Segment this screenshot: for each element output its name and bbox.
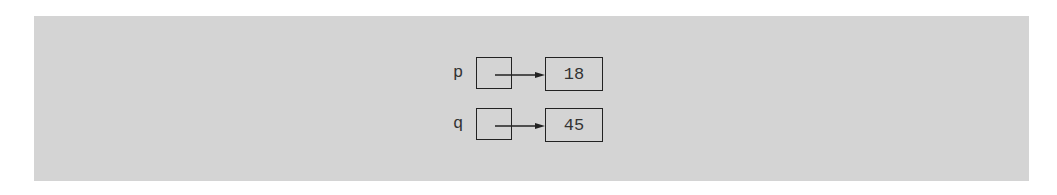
- value-box: 18: [545, 57, 603, 91]
- variable-label: q: [453, 112, 463, 136]
- value-box: 45: [545, 108, 603, 142]
- diagram-panel: p 18 q 45: [34, 16, 1029, 181]
- pointer-row-p: p 18: [34, 57, 1029, 91]
- pointer-row-q: q 45: [34, 108, 1029, 142]
- variable-label: p: [453, 61, 463, 85]
- arrow-icon: [495, 72, 545, 78]
- arrow-icon: [495, 123, 545, 129]
